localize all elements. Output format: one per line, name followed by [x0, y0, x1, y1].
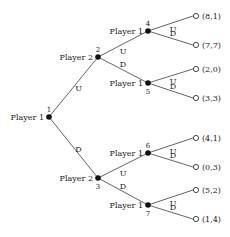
node-number: 7: [146, 210, 150, 218]
decision-node: [145, 28, 151, 34]
node-number: 1: [47, 106, 51, 114]
terminal-node: [193, 216, 198, 221]
edge-label: D: [170, 82, 176, 91]
node-number: 5: [146, 88, 150, 96]
node-number: 6: [146, 142, 151, 150]
player-label: Player 2: [60, 53, 93, 62]
decision-nodes: Player 11Player 22Player 23Player 14Play…: [11, 20, 151, 218]
edge-label: D: [170, 151, 176, 160]
payoff-label: (4,1): [202, 134, 221, 143]
payoff-label: (0,3): [202, 163, 221, 172]
terminal-node: [193, 42, 198, 47]
edge-label: U: [75, 84, 82, 93]
terminal-node: [193, 187, 198, 192]
node-number: 4: [146, 20, 151, 28]
game-tree: UDUDUDUDUDUDUD Player 11Player 22Player …: [0, 0, 230, 237]
edge-label: U: [120, 169, 127, 178]
player-label: Player 1: [110, 27, 143, 36]
terminal-nodes: (8,1)(7,7)(2,0)(3,3)(4,1)(0,3)(5,2)(1,4): [193, 12, 221, 224]
edge-label: D: [170, 29, 176, 38]
terminal-node: [193, 95, 198, 100]
decision-node: [145, 80, 151, 86]
node-number: 2: [96, 46, 100, 54]
terminal-node: [193, 135, 198, 140]
terminal-node: [193, 164, 198, 169]
player-label: Player 1: [110, 149, 143, 158]
edge-label: D: [170, 203, 176, 212]
payoff-label: (5,2): [202, 186, 221, 195]
payoff-label: (3,3): [202, 94, 221, 103]
player-label: Player 1: [110, 201, 143, 210]
decision-node: [95, 175, 101, 181]
terminal-node: [193, 13, 198, 18]
player-label: Player 1: [110, 79, 143, 88]
edge-label: U: [120, 47, 127, 56]
edge-label: D: [75, 145, 81, 154]
player-label: Player 2: [60, 174, 93, 183]
decision-node: [145, 150, 151, 156]
player-label: Player 1: [11, 113, 44, 122]
edge: [49, 57, 98, 117]
payoff-label: (2,0): [202, 65, 221, 74]
payoff-label: (7,7): [202, 41, 221, 50]
payoff-label: (8,1): [202, 12, 221, 21]
edge-label: D: [120, 60, 126, 69]
decision-node: [95, 54, 101, 60]
payoff-label: (1,4): [202, 215, 221, 224]
edge: [49, 117, 98, 178]
decision-node: [46, 114, 52, 120]
decision-node: [145, 202, 151, 208]
edge-label: D: [120, 182, 126, 191]
terminal-node: [193, 66, 198, 71]
node-number: 3: [96, 183, 100, 191]
